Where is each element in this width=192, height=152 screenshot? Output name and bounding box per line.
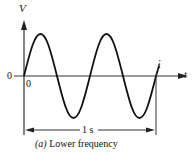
y-axis-arrow-icon xyxy=(21,20,27,30)
marker-label: t xyxy=(158,60,161,70)
caption-text: Lower frequency xyxy=(49,138,118,149)
y-axis-label: V xyxy=(19,3,26,13)
interval-arrow-left-icon xyxy=(25,128,34,133)
x-axis-label: t xyxy=(184,70,187,80)
waveform-diagram xyxy=(0,0,192,152)
origin-below-label: 0 xyxy=(26,79,31,89)
interval-label: 1 s xyxy=(82,125,93,135)
caption-prefix: (a) xyxy=(35,138,47,149)
interval-arrow-right-icon xyxy=(146,128,155,133)
caption: (a) Lower frequency xyxy=(35,139,118,149)
origin-left-label: 0 xyxy=(7,71,12,81)
